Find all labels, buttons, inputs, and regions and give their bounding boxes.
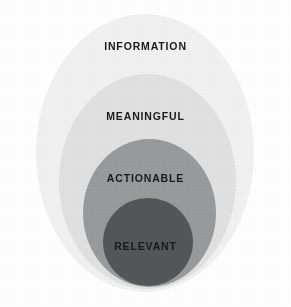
label-actionable: ACTIONABLE [0, 172, 291, 184]
label-relevant: RELEVANT [0, 240, 291, 252]
nested-circles-diagram: INFORMATION MEANINGFUL ACTIONABLE RELEVA… [0, 0, 291, 307]
label-meaningful: MEANINGFUL [0, 110, 291, 122]
label-information: INFORMATION [0, 40, 291, 52]
